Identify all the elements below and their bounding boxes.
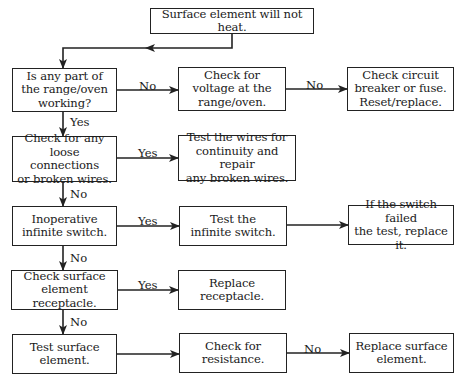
flowchart-node-loose-connections: Check for any loose connections or broke… <box>12 136 117 182</box>
flowchart-node-any-part-working: Is any part of the range/oven working? <box>12 68 117 112</box>
edge-label-no: No <box>70 188 87 200</box>
flowchart-node-replace-receptacle: Replace receptacle. <box>178 270 286 310</box>
flowchart-node-check-receptacle: Check surface element receptacle. <box>11 270 118 310</box>
flowchart-node-replace-element: Replace surface element. <box>349 333 454 373</box>
flowchart-node-test-element: Test surface element. <box>12 334 117 374</box>
flowchart-node-inoperative-switch: Inoperative infinite switch. <box>12 206 117 246</box>
flowchart-node-test-wires: Test the wires for continuity and repair… <box>178 135 296 181</box>
flowchart-canvas: Surface element will not heat.Is any par… <box>0 0 462 382</box>
flowchart-node-replace-switch: If the switch failed the test, replace i… <box>348 205 454 245</box>
edge-label-yes: Yes <box>138 215 157 227</box>
edge-label-yes: Yes <box>138 279 157 291</box>
flowchart-node-check-voltage: Check for voltage at the range/oven. <box>178 67 286 111</box>
flowchart-node-test-switch: Test the infinite switch. <box>179 206 287 246</box>
edge-label-no: No <box>139 80 156 92</box>
arrow-start-to-any-part-working <box>63 34 232 68</box>
edge-label-no: No <box>304 343 321 355</box>
edge-label-no: No <box>306 79 323 91</box>
flowchart-node-check-breaker: Check circuit breaker or fuse. Reset/rep… <box>347 67 454 111</box>
edge-label-no: No <box>70 252 87 264</box>
flowchart-node-start: Surface element will not heat. <box>150 8 314 34</box>
edge-label-yes: Yes <box>70 116 89 128</box>
flowchart-node-check-resistance: Check for resistance. <box>179 333 287 373</box>
edge-label-yes: Yes <box>138 147 157 159</box>
edge-label-no: No <box>70 316 87 328</box>
